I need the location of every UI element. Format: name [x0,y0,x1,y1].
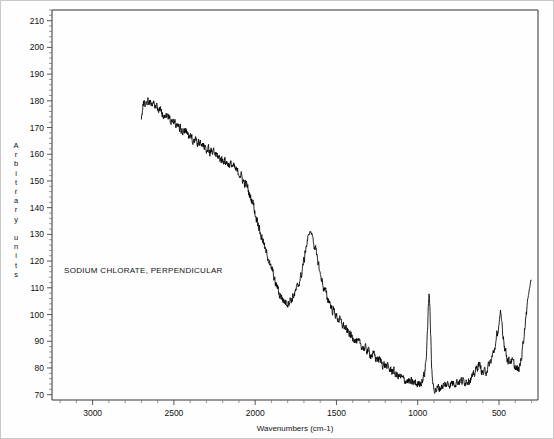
y-tick-label: 130 [30,229,44,239]
plot-area: 7080901001101201301401501601701801902002… [1,1,554,439]
y-tick-label: 170 [30,123,44,133]
y-tick-label: 80 [35,363,45,373]
y-tick-label: 160 [30,149,44,159]
y-tick-label: 70 [35,390,45,400]
x-tick-label: 1000 [408,408,427,418]
y-tick-label: 150 [30,176,44,186]
spectrum-trace [141,98,531,394]
spectrum-chart: 7080901001101201301401501601701801902002… [1,1,554,439]
x-tick-label: 2000 [246,408,265,418]
y-tick-label: 200 [30,42,44,52]
chart-frame: Arbitrary units 708090100110120130140150… [0,0,554,439]
y-tick-label: 110 [30,283,44,293]
x-tick-label: 1500 [327,408,346,418]
x-tick-label: 500 [492,408,506,418]
y-tick-label: 140 [30,203,44,213]
x-tick-label: 2500 [164,408,183,418]
axis-lines [52,10,538,400]
y-tick-label: 100 [30,310,44,320]
y-tick-label: 180 [30,96,44,106]
y-tick-label: 190 [30,69,44,79]
y-tick-label: 90 [35,336,45,346]
x-tick-label: 3000 [83,408,102,418]
x-axis-title: Wavenumbers (cm-1) [257,424,334,433]
y-tick-label: 120 [30,256,44,266]
sample-annotation: SODIUM CHLORATE, PERPENDICULAR [64,266,223,275]
y-tick-label: 210 [30,16,44,26]
